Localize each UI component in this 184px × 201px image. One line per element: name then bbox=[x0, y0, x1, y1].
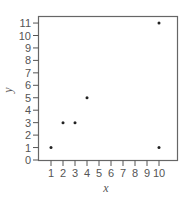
y-tick-label: 8 bbox=[25, 54, 31, 66]
data-point bbox=[158, 146, 161, 149]
x-axis-ticks: 12345678910 bbox=[48, 161, 165, 180]
x-tick-label: 7 bbox=[120, 167, 126, 179]
x-tick-label: 4 bbox=[84, 167, 90, 179]
y-tick-label: 1 bbox=[25, 142, 31, 154]
y-tick-label: 9 bbox=[25, 42, 31, 54]
y-tick-label: 6 bbox=[25, 79, 31, 91]
y-tick-label: 7 bbox=[25, 67, 31, 79]
scatter-chart: 01234567891011 12345678910 x y bbox=[0, 0, 184, 201]
x-tick-label: 5 bbox=[96, 167, 102, 179]
x-tick-label: 1 bbox=[48, 167, 54, 179]
y-tick-label: 3 bbox=[25, 117, 31, 129]
x-tick-label: 9 bbox=[144, 167, 150, 179]
y-tick-label: 2 bbox=[25, 129, 31, 141]
x-axis-label: x bbox=[102, 181, 109, 195]
data-points bbox=[50, 22, 161, 150]
x-tick-label: 3 bbox=[72, 167, 78, 179]
y-tick-label: 4 bbox=[25, 104, 31, 116]
y-axis-ticks: 01234567891011 bbox=[19, 17, 39, 166]
data-point bbox=[158, 22, 161, 25]
x-tick-label: 10 bbox=[153, 167, 165, 179]
y-tick-label: 5 bbox=[25, 92, 31, 104]
x-tick-label: 2 bbox=[60, 167, 66, 179]
y-tick-label: 11 bbox=[20, 17, 31, 29]
data-point bbox=[74, 121, 77, 124]
data-point bbox=[50, 146, 53, 149]
data-point bbox=[86, 96, 89, 99]
x-tick-label: 6 bbox=[108, 167, 114, 179]
y-tick-label: 0 bbox=[25, 154, 31, 166]
y-axis-label: y bbox=[1, 87, 15, 94]
y-tick-label: 10 bbox=[19, 30, 31, 42]
data-point bbox=[62, 121, 65, 124]
plot-frame bbox=[39, 17, 178, 161]
x-tick-label: 8 bbox=[132, 167, 138, 179]
